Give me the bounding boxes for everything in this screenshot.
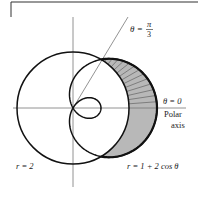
limacon-equation-label: r = 1 + 2 cos θ (127, 161, 179, 171)
svg-text:θ =: θ = (130, 24, 143, 34)
axis-label: axis (171, 120, 185, 130)
three-denominator: 3 (147, 30, 151, 39)
pi-numerator: π (147, 19, 152, 29)
theta-label: θ = (130, 24, 143, 34)
polar-label: Polar (164, 109, 182, 119)
theta-zero-label: θ = 0 (163, 96, 182, 106)
polar-diagram: θ = π 3 θ = 0 Polar axis r = 2 r = 1 + 2… (0, 0, 198, 198)
circle-equation-label: r = 2 (16, 161, 34, 171)
